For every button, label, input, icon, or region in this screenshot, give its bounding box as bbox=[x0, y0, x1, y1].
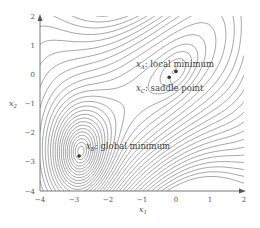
x-tick-label: 1 bbox=[208, 196, 212, 204]
y-ticks: 210−1−2−3−4 bbox=[25, 13, 36, 196]
y-tick-label: −3 bbox=[25, 158, 35, 166]
x-axis-arrow-icon bbox=[239, 189, 246, 194]
annotation-global-minimum: xB: global minimum bbox=[86, 141, 170, 152]
annotation-saddle-point: xC: saddle point bbox=[136, 83, 204, 94]
contour-line bbox=[161, 172, 244, 191]
contour-line bbox=[40, 16, 244, 191]
contour-line bbox=[134, 131, 244, 191]
x-tick-label: 2 bbox=[242, 196, 246, 204]
x-axis-label: x1 bbox=[139, 205, 147, 215]
x-tick-label: −1 bbox=[137, 196, 147, 204]
y-tick-label: −4 bbox=[25, 188, 36, 196]
x-tick-label: −3 bbox=[69, 196, 79, 204]
x-tick-label: −4 bbox=[35, 196, 46, 204]
contour-lines bbox=[40, 16, 244, 191]
contour-line bbox=[75, 142, 86, 159]
y-tick-label: −2 bbox=[25, 129, 35, 137]
contour-line bbox=[143, 147, 244, 191]
y-tick-label: −1 bbox=[25, 100, 35, 108]
x-tick-label: 0 bbox=[174, 196, 178, 204]
y-axis-arrow-icon bbox=[38, 14, 43, 21]
contour-line bbox=[96, 16, 244, 191]
y-tick-label: 0 bbox=[31, 71, 35, 79]
y-axis-label: x2 bbox=[9, 99, 18, 109]
point-x-b bbox=[77, 154, 81, 158]
contour-line bbox=[54, 16, 244, 191]
y-tick-label: 1 bbox=[31, 42, 35, 50]
annotation-local-minimum: xA: local minimum bbox=[136, 59, 214, 70]
contour-line bbox=[167, 177, 244, 192]
x-tick-label: −2 bbox=[103, 196, 113, 204]
contour-line bbox=[40, 16, 244, 191]
x-ticks: −4−3−2−1012 bbox=[35, 196, 246, 204]
contour-plot: −4−3−2−1012 210−1−2−3−4 x1 x2 xA: local … bbox=[0, 0, 260, 228]
contour-line bbox=[40, 16, 244, 191]
contour-line bbox=[152, 162, 245, 191]
contour-line bbox=[72, 16, 244, 191]
y-tick-label: 2 bbox=[31, 13, 35, 21]
contour-line bbox=[53, 59, 186, 191]
